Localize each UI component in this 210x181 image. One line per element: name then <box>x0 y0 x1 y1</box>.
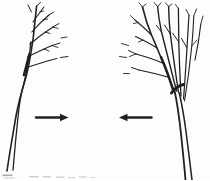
arrow-left-head <box>119 114 128 121</box>
left-tree-twig <box>50 12 55 15</box>
right-tree-stem <box>195 24 201 60</box>
right-tree-dash <box>120 57 127 58</box>
two-trees-figure <box>0 0 210 180</box>
right-tree-twig <box>139 3 143 7</box>
right-tree-branch <box>139 70 168 77</box>
left-tree-twig <box>49 59 57 61</box>
right-tree-twig <box>176 5 179 9</box>
right-tree-twig <box>194 9 197 16</box>
right-tree-twig <box>186 10 189 16</box>
right-tree-twig <box>130 54 137 57</box>
left-tree-twig <box>61 57 69 58</box>
left-tree-twig <box>52 43 60 46</box>
caption-remnant-mark <box>56 177 65 178</box>
caption-remnant-mark <box>43 176 51 177</box>
figure-canvas <box>0 0 210 180</box>
caption-remnant-mark <box>90 177 96 178</box>
right-tree-branch <box>136 54 163 63</box>
right-tree-sketch <box>120 3 204 181</box>
right-tree-stem <box>178 9 181 97</box>
right-tree-twig <box>154 3 158 7</box>
left-tree-twig <box>37 3 41 7</box>
left-tree-twig <box>53 24 59 28</box>
right-tree-twig <box>129 51 137 55</box>
left-tree-twig <box>45 32 50 34</box>
right-tree-twig <box>182 39 188 49</box>
arrow-left-icon <box>119 114 152 121</box>
right-tree-twig <box>143 4 147 7</box>
right-tree-twig <box>158 3 161 7</box>
right-tree-twig <box>169 4 172 7</box>
left-tree-twig <box>28 5 32 12</box>
left-tree-twig <box>44 49 49 51</box>
left-tree-trunk-line <box>7 6 37 171</box>
left-tree-twig <box>53 27 58 29</box>
left-tree-sketch <box>7 3 68 172</box>
right-tree-trunk-line <box>175 92 186 180</box>
caption-remnant-mark <box>29 176 39 177</box>
right-tree-twig <box>132 68 140 71</box>
right-tree-twig <box>166 3 169 7</box>
right-tree-twig <box>134 23 139 24</box>
caption-remnant-mark <box>68 177 75 178</box>
right-tree-twig <box>201 16 203 24</box>
arrow-right-head <box>60 114 69 121</box>
caption-remnant <box>3 175 97 179</box>
caption-remnant-mark <box>79 176 87 177</box>
right-tree-stem <box>158 7 177 92</box>
right-tree-twig <box>139 40 144 42</box>
arrow-right-icon <box>36 114 69 121</box>
left-tree-twig <box>61 37 67 38</box>
right-tree-dash <box>122 44 129 46</box>
right-tree-twig <box>131 16 136 21</box>
left-tree-twig <box>52 46 58 48</box>
right-tree-twig <box>173 33 179 42</box>
caption-remnant-mark <box>3 175 13 177</box>
caption-remnant-mark <box>4 178 15 179</box>
left-tree-branch <box>33 7 44 22</box>
